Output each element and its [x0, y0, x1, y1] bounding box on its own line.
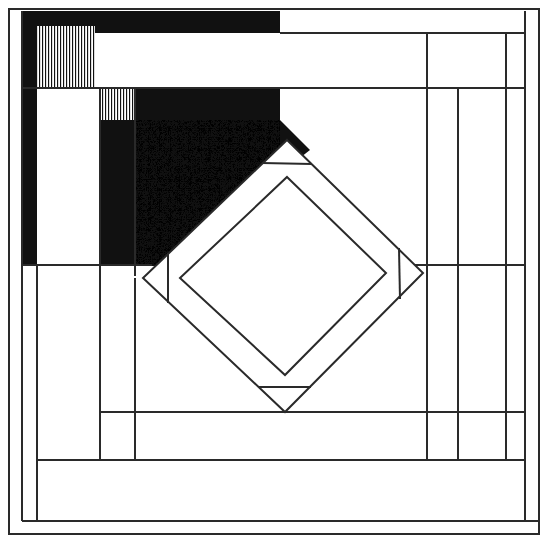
artwork-canvas: Geometric Composition with Rotated Squar…: [0, 0, 548, 543]
geometric-composition-svg: Geometric Composition with Rotated Squar…: [0, 0, 548, 543]
hatch-large-top-left: [37, 26, 95, 88]
hatch-small-upper: [100, 88, 135, 120]
left-black-column: [22, 11, 37, 266]
mid-black-block: [100, 120, 136, 266]
diamond-corner-chord-right: [399, 248, 400, 299]
diamond-corner-chord-top: [262, 163, 312, 164]
